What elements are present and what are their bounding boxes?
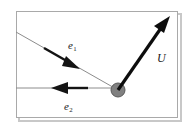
- vector-e1-label: e1: [68, 40, 76, 51]
- vector-u-label: U: [157, 52, 166, 64]
- vector-diagram-figure: e1 e2 U: [0, 0, 191, 129]
- vector-e1-label-subscript: 1: [73, 45, 76, 52]
- vector-e2-label-subscript: 2: [69, 106, 72, 113]
- vector-u-label-text: U: [157, 51, 166, 65]
- vector-e2-label: e2: [64, 101, 72, 112]
- figure-border: [17, 12, 178, 118]
